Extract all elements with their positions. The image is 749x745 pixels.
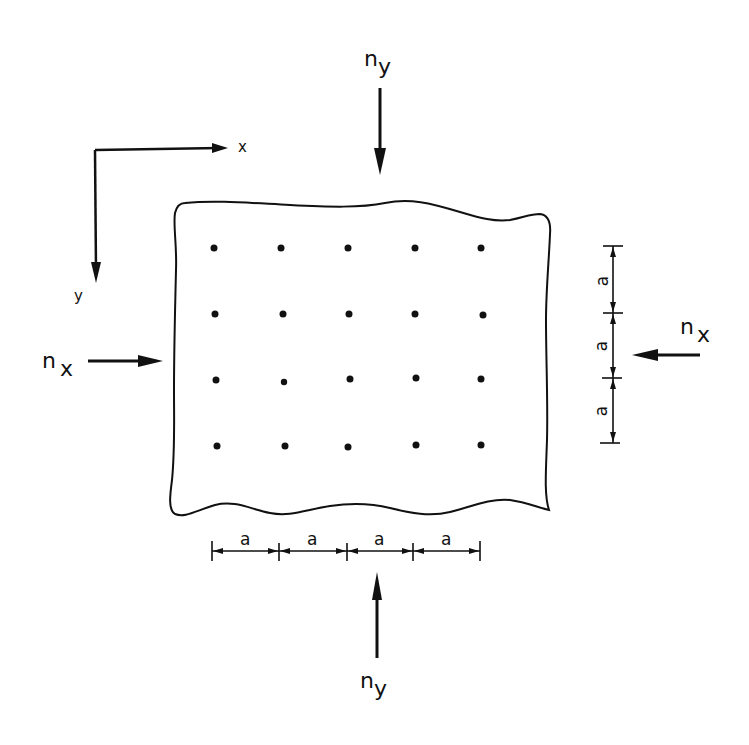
load-right-label: n bbox=[680, 314, 694, 339]
grid-dot bbox=[478, 245, 485, 252]
grid-dot bbox=[282, 443, 289, 450]
grid-dot bbox=[212, 311, 219, 318]
grid-dot bbox=[211, 245, 218, 252]
grid-dot bbox=[412, 245, 419, 252]
load-right-subscript: x bbox=[697, 322, 710, 347]
load-bottom-label: n bbox=[360, 668, 374, 693]
x-axis-arrow-icon bbox=[212, 143, 228, 153]
load-left-label: n bbox=[42, 348, 56, 373]
plate-outline bbox=[170, 201, 550, 515]
grid-dot bbox=[478, 442, 485, 449]
load-bottom: n y bbox=[360, 572, 387, 701]
y-axis-label: y bbox=[74, 287, 83, 305]
grid-dot bbox=[345, 444, 352, 451]
dim-label-v1: a bbox=[592, 276, 612, 286]
dim-label-h4: a bbox=[441, 529, 451, 549]
x-axis-label: x bbox=[238, 138, 247, 156]
arrow-right-icon bbox=[138, 355, 163, 367]
grid-dot bbox=[478, 376, 485, 383]
dim-label-h1: a bbox=[240, 529, 250, 549]
grid-dot bbox=[213, 377, 220, 384]
load-left: n x bbox=[42, 348, 163, 381]
x-axis-line bbox=[95, 148, 220, 150]
grid-dot bbox=[413, 375, 420, 382]
grid-dot bbox=[413, 442, 420, 449]
load-left-subscript: x bbox=[60, 356, 73, 381]
grid-dot bbox=[347, 376, 354, 383]
grid-dot bbox=[346, 311, 353, 318]
dim-label-v3: a bbox=[591, 406, 611, 416]
grid-dot bbox=[214, 443, 221, 450]
dot-grid bbox=[211, 245, 487, 451]
arrow-down-icon bbox=[374, 148, 386, 175]
dim-label-v2: a bbox=[591, 341, 611, 351]
grid-dot bbox=[345, 245, 352, 252]
load-top-subscript: y bbox=[378, 54, 391, 79]
horizontal-dimension bbox=[212, 541, 480, 561]
grid-dot bbox=[278, 245, 285, 252]
grid-dot bbox=[412, 311, 419, 318]
y-axis-arrow-icon bbox=[91, 262, 101, 283]
grid-dot bbox=[281, 379, 287, 385]
plate-diagram: x y n y n y bbox=[0, 0, 749, 745]
dim-label-h3: a bbox=[374, 529, 384, 549]
y-axis-line bbox=[95, 150, 96, 270]
coordinate-axes: x y bbox=[74, 138, 247, 305]
grid-dot bbox=[480, 312, 487, 319]
load-bottom-subscript: y bbox=[374, 676, 387, 701]
load-right: n x bbox=[632, 314, 710, 361]
dim-label-h2: a bbox=[307, 529, 317, 549]
load-top: n y bbox=[364, 46, 391, 175]
load-top-label: n bbox=[364, 46, 378, 71]
grid-dot bbox=[280, 311, 287, 318]
